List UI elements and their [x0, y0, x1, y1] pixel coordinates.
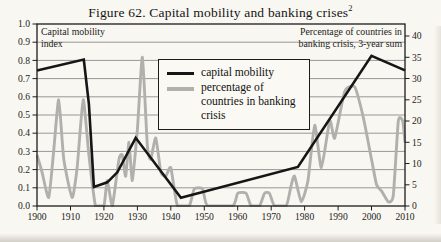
x-tick-label: 1910 [61, 211, 80, 222]
legend: capital mobility percentage of countries… [158, 59, 310, 130]
y-right-tick-label: 30 [412, 73, 422, 84]
y-right-tick-label: 40 [412, 30, 422, 41]
legend-label: capital mobility [201, 66, 303, 80]
y-right-tick-label: 25 [412, 94, 422, 105]
x-tick-label: 1940 [161, 211, 180, 222]
x-tick-label: 1920 [94, 211, 113, 222]
right-axis-title: Percentage of countries in banking crisi… [299, 26, 402, 50]
y-left-tick-label: 0.4 [18, 127, 30, 138]
y-left-tick-label: 0.8 [18, 55, 30, 66]
figure-title: Figure 62. Capital mobility and banking … [0, 3, 441, 21]
left-axis-title-line2: index [41, 38, 105, 50]
y-right-tick-label: 15 [412, 137, 422, 148]
y-left-tick-label: 0.2 [18, 164, 30, 175]
capital-mobility-line-swatch [167, 72, 194, 75]
x-tick-label: 1960 [228, 211, 247, 222]
page-scan-shadow-bottom [0, 233, 441, 242]
y-left-tick-label: 0.7 [18, 73, 30, 84]
y-right-tick-label: 20 [412, 115, 422, 126]
y-right-tick-label: 10 [412, 158, 422, 169]
figure-title-text: Figure 62. Capital mobility and banking … [88, 5, 348, 20]
y-left-tick-label: 0.5 [18, 109, 30, 120]
y-right-tick-label: 35 [412, 52, 422, 63]
y-left-tick-label: 0.9 [18, 36, 30, 47]
legend-label: percentage of countries in banking crisi… [201, 81, 303, 123]
left-axis-title-line1: Capital mobility [41, 26, 105, 38]
legend-item-capital-mobility: capital mobility [166, 66, 303, 80]
x-tick-label: 2000 [362, 211, 381, 222]
y-left-tick-label: 0.0 [18, 200, 30, 211]
left-axis-title: Capital mobility index [41, 26, 105, 50]
y-right-tick-label: 0 [412, 200, 417, 211]
x-tick-label: 1950 [195, 211, 214, 222]
right-axis-title-line2: banking crisis, 3-year sum [299, 38, 402, 50]
x-tick-label: 1930 [128, 211, 147, 222]
figure-footnote-marker: 2 [348, 3, 352, 13]
page-scan-shadow-right [434, 26, 441, 224]
legend-item-banking-crisis: percentage of countries in banking crisi… [166, 81, 303, 123]
y-left-tick-label: 0.3 [18, 146, 30, 157]
y-left-tick-label: 0.6 [18, 91, 30, 102]
x-tick-label: 2010 [395, 211, 414, 222]
banking-crisis-line-swatch [167, 87, 194, 90]
y-right-tick-label: 5 [412, 179, 417, 190]
x-tick-label: 1970 [262, 211, 281, 222]
x-tick-label: 1980 [295, 211, 314, 222]
right-axis-title-line1: Percentage of countries in [299, 26, 402, 38]
x-tick-label: 1900 [27, 211, 46, 222]
scanned-figure-page: 1.00.90.80.70.60.50.40.30.20.10.04035302… [0, 0, 441, 242]
y-left-tick-label: 0.1 [18, 182, 30, 193]
x-tick-label: 1990 [329, 211, 348, 222]
